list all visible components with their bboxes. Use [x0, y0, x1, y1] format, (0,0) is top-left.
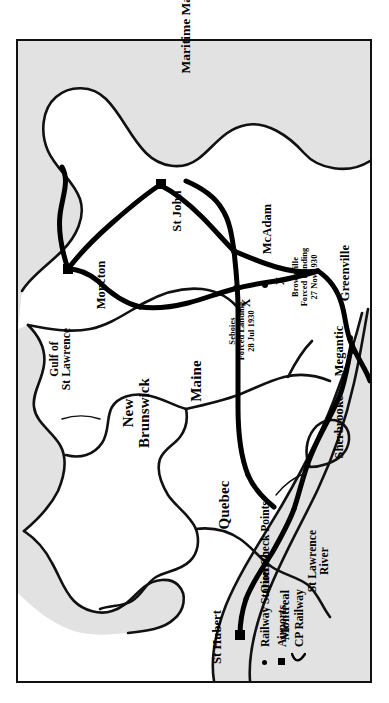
legend-item-cp-railway: CP Railway [290, 501, 307, 665]
region-label-new-brunswick-line2: Brunswick [136, 378, 152, 448]
station-marker-brownville [262, 282, 268, 288]
legend-item-airports: Airports [273, 501, 290, 665]
airport-marker-st-john [156, 179, 166, 189]
legend-square-icon [278, 648, 285, 665]
region-label-quebec: Quebec [216, 481, 232, 530]
region-label-new-brunswick: New Brunswick [120, 378, 152, 448]
legend-item-railway-station: Railway Station Check Points [256, 501, 273, 665]
event-label-brownville: Brownville Forced Landing 27 Nov 1930 [291, 248, 319, 307]
map-title-maritime-mail: Maritime Mail [178, 0, 194, 74]
event-label-seboies: Seboies Forced Landing 28 Jul 1930 [228, 302, 256, 361]
region-label-maine: Maine [188, 360, 204, 401]
event-label-brownville-type: Forced Landing [300, 248, 309, 307]
event-label-brownville-date: 27 Nov 1930 [310, 248, 319, 307]
water-label-river-line2: River [318, 530, 330, 593]
region-label-maine-line1: Maine [188, 360, 204, 401]
region-label-quebec-line1: Quebec [216, 481, 232, 530]
water-label-gulf-of-st-lawrence: Gulf of St Lawrence [48, 328, 73, 391]
legend-label-airports: Airports [276, 605, 288, 648]
event-label-seboies-date: 28 Jul 1930 [247, 302, 256, 361]
city-label-megantic: Megantic [333, 326, 347, 377]
region-label-new-brunswick-line1: New [120, 378, 136, 448]
event-label-seboies-name: Seboies [228, 302, 237, 361]
water-label-gulf-line2: St Lawrence [60, 328, 72, 391]
city-label-mcadam: McAdam [261, 204, 275, 255]
station-marker-mcadam [231, 248, 237, 254]
airport-marker-st-hubert [235, 630, 245, 640]
station-marker-megantic [347, 335, 353, 341]
map-page: X X New Brunswick Maine Quebec Gulf of S… [0, 0, 389, 703]
city-label-moncton: Moncton [95, 261, 109, 310]
legend-label-railway-station: Railway Station Check Points [259, 501, 271, 648]
event-label-seboies-type: Forced Landing [237, 302, 246, 361]
city-label-sherbrooke: Sherbrooke [333, 395, 347, 458]
map-frame: X X New Brunswick Maine Quebec Gulf of S… [16, 39, 372, 683]
legend-label-cp-railway: CP Railway [293, 589, 305, 648]
city-label-st-hubert: St Hubert [211, 610, 225, 664]
map-legend: Railway Station Check Points Airports CP… [256, 501, 307, 665]
city-label-greenville: Greenville [339, 245, 353, 301]
water-label-st-lawrence-river: St Lawrence River [306, 530, 331, 593]
city-label-st-john: St John [171, 190, 185, 231]
legend-railway-curve-icon [291, 648, 306, 665]
forced-landing-x-brownville: X [273, 277, 288, 286]
legend-dot-icon [262, 648, 267, 665]
water-label-river-line1: St Lawrence [306, 530, 318, 593]
airport-marker-moncton [63, 264, 73, 274]
map-plate: X X New Brunswick Maine Quebec Gulf of S… [0, 0, 389, 703]
event-label-brownville-name: Brownville [291, 248, 300, 307]
water-label-gulf-line1: Gulf of [48, 328, 60, 391]
station-marker-junction [233, 285, 239, 291]
station-marker-sherbrooke [351, 348, 357, 354]
